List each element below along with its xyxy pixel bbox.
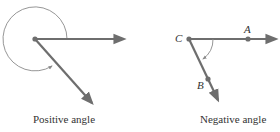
positive-angle-caption: Positive angle	[33, 113, 95, 125]
vertex-point	[32, 36, 37, 41]
point-a	[245, 36, 250, 41]
negative-angle-caption: Negative angle	[200, 113, 266, 125]
terminal-ray	[35, 39, 92, 103]
label-c: C	[175, 32, 182, 44]
point-b	[205, 76, 210, 81]
label-b: B	[197, 79, 204, 91]
point-c	[186, 36, 191, 41]
positive-angle-diagram	[3, 7, 124, 103]
negative-angle-arc	[203, 39, 213, 59]
label-a: A	[244, 23, 251, 35]
